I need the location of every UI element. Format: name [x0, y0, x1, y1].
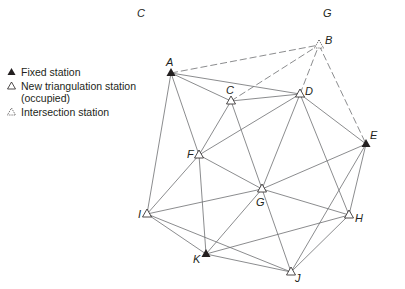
station-label-B: B	[325, 34, 332, 46]
observation-line-F-I	[147, 155, 199, 214]
observation-line-E-J	[291, 144, 366, 272]
station-label-J: J	[294, 272, 301, 284]
observation-line-A-F	[171, 73, 199, 155]
observation-line-H-J	[291, 215, 349, 272]
observation-line-F-K	[199, 155, 206, 254]
observation-line-G-I	[147, 189, 262, 214]
station-label-F: F	[187, 148, 195, 160]
observation-line-K-J	[206, 254, 291, 272]
observation-line-G-J	[262, 189, 291, 272]
observation-line-C-G	[231, 101, 262, 189]
observation-line-G-H	[262, 189, 349, 215]
observation-line-I-J	[147, 214, 291, 272]
station-label-D: D	[305, 85, 313, 97]
observation-line-A-I	[147, 73, 171, 214]
station-label-A: A	[165, 56, 173, 68]
station-label-G: G	[256, 196, 265, 208]
station-label-H: H	[355, 212, 363, 224]
station-F-new-triangle-icon	[195, 150, 204, 158]
observation-line-A-B	[171, 45, 319, 73]
observation-line-A-C	[171, 73, 231, 101]
triangulation-network: ABCDEFGHIJK	[0, 0, 405, 289]
observation-line-H-K	[206, 215, 349, 254]
observation-line-B-E	[319, 45, 366, 144]
station-D-new-triangle-icon	[296, 89, 305, 97]
station-label-I: I	[138, 208, 141, 220]
observation-line-G-K	[206, 189, 262, 254]
station-label-C: C	[226, 84, 234, 96]
observation-line-A-D	[171, 73, 300, 94]
station-label-K: K	[193, 253, 201, 265]
observation-line-E-H	[349, 144, 366, 215]
observation-line-D-F	[199, 94, 300, 155]
station-C-new-triangle-icon	[227, 96, 236, 104]
station-B-intersection-triangle-icon	[315, 40, 324, 48]
station-label-E: E	[370, 129, 378, 141]
observation-line-C-F	[199, 101, 231, 155]
observation-line-F-G	[199, 155, 262, 189]
